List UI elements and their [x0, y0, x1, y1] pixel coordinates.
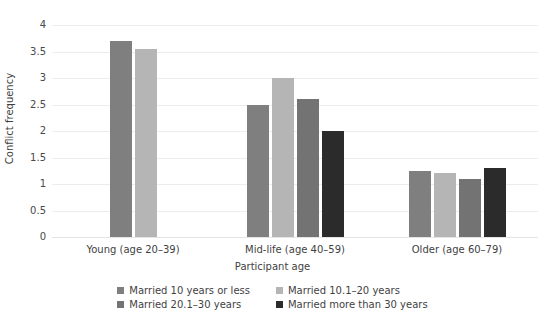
- gridline: [52, 237, 538, 238]
- x-axis-category-label: Older (age 60–79): [376, 244, 538, 255]
- legend-item-label: Married 20.1–30 years: [129, 299, 241, 310]
- x-axis-title-label: Participant age: [235, 261, 310, 272]
- bar-group: [52, 25, 214, 237]
- y-axis-tick-labels: 00.511.522.533.54: [0, 25, 46, 237]
- y-axis-tick-label: 0.5: [2, 206, 46, 216]
- x-axis-category-label: Mid-life (age 40–59): [214, 244, 376, 255]
- legend: Married 10 years or lessMarried 10.1–20 …: [0, 285, 545, 310]
- bar-group: [214, 25, 376, 237]
- bar: [484, 168, 506, 237]
- bar: [110, 41, 132, 237]
- legend-item-label: Married 10.1–20 years: [288, 285, 400, 296]
- legend-item-label: Married more than 30 years: [288, 299, 428, 310]
- bar-group: [376, 25, 538, 237]
- y-axis-tick-label: 2.5: [2, 100, 46, 110]
- legend-item[interactable]: Married 10 years or less: [117, 285, 250, 296]
- y-axis-tick-label: 3: [2, 73, 46, 83]
- bar-chart: Conflict frequency 00.511.522.533.54 You…: [0, 0, 545, 322]
- x-axis-title: Participant age: [0, 261, 545, 272]
- y-axis-tick-label: 2: [2, 126, 46, 136]
- bar: [409, 171, 431, 237]
- bar: [459, 179, 481, 237]
- legend-swatch-icon: [276, 301, 283, 308]
- legend-item[interactable]: Married 20.1–30 years: [117, 299, 250, 310]
- bar: [297, 99, 319, 237]
- plot-area: [52, 25, 538, 237]
- bar: [135, 49, 157, 237]
- y-axis-tick-label: 1: [2, 179, 46, 189]
- legend-item-label: Married 10 years or less: [129, 285, 250, 296]
- y-axis-tick-label: 3.5: [2, 47, 46, 57]
- y-axis-tick-label: 4: [2, 20, 46, 30]
- legend-swatch-icon: [117, 287, 124, 294]
- y-axis-tick-label: 1.5: [2, 153, 46, 163]
- y-axis-tick-label: 0: [2, 232, 46, 242]
- bar: [272, 78, 294, 237]
- bar: [247, 105, 269, 238]
- x-axis-category-label: Young (age 20–39): [52, 244, 214, 255]
- legend-item[interactable]: Married 10.1–20 years: [276, 285, 428, 296]
- legend-swatch-icon: [276, 287, 283, 294]
- legend-item[interactable]: Married more than 30 years: [276, 299, 428, 310]
- legend-swatch-icon: [117, 301, 124, 308]
- bar: [434, 173, 456, 237]
- bar: [322, 131, 344, 237]
